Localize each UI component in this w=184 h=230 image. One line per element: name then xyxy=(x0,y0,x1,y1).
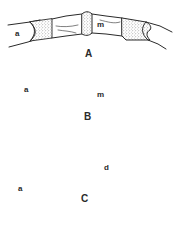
panel-label-c: C xyxy=(81,194,88,204)
label-a-panel-c: a xyxy=(18,185,22,193)
label-m-panel-a: m xyxy=(97,21,104,29)
label-m-panel-b: m xyxy=(97,91,104,99)
panel-label-a: A xyxy=(85,49,92,59)
label-a-panel-a: a xyxy=(15,30,19,38)
anatomical-figure: a m A a m B a d C xyxy=(0,0,184,230)
panel-a-drawing xyxy=(8,12,172,49)
panel-label-b: B xyxy=(84,112,91,122)
label-a-panel-b: a xyxy=(24,86,28,94)
figure-drawing xyxy=(0,0,184,230)
label-d-panel-c: d xyxy=(104,164,109,172)
